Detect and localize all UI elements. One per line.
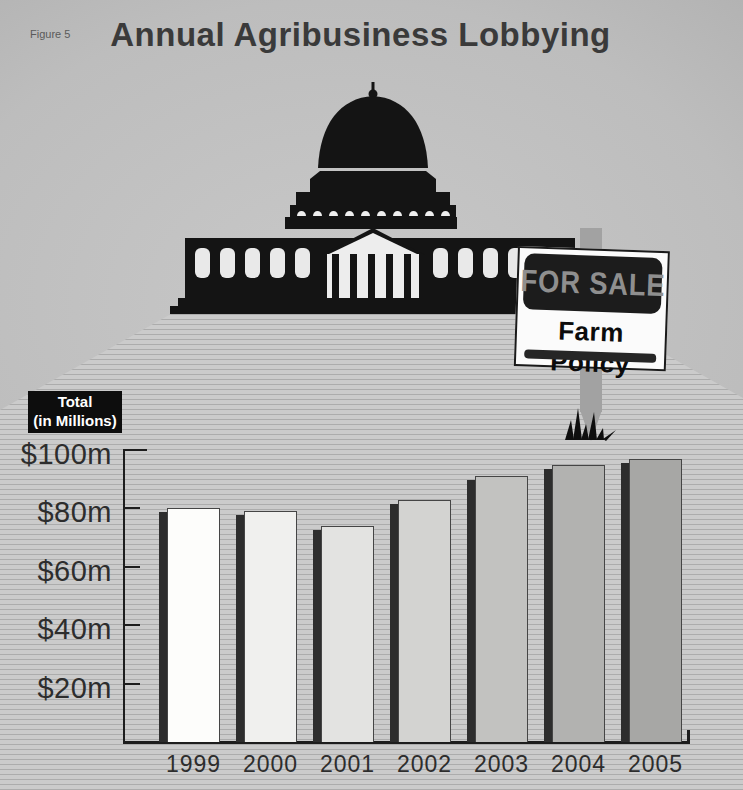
y-tick-label: $80m: [16, 496, 112, 529]
bar: [167, 508, 220, 742]
bar-shadow: [621, 463, 629, 742]
y-tick: [123, 683, 140, 685]
y-tick-label: $40m: [16, 613, 112, 646]
bar-shadow: [159, 512, 167, 742]
bar: [244, 511, 297, 742]
x-tick-label: 2003: [462, 751, 542, 778]
bar: [475, 476, 528, 742]
y-axis-line: [123, 450, 125, 742]
y-tick-label: $20m: [16, 672, 112, 705]
bar: [552, 465, 605, 742]
x-tick-label: 2005: [616, 751, 696, 778]
y-tick-label: $100m: [16, 438, 112, 471]
y-tick: [123, 566, 140, 568]
bar-shadow: [313, 530, 321, 742]
x-tick-label: 2000: [231, 751, 311, 778]
x-tick-label: 2002: [385, 751, 465, 778]
infographic-page: Figure 5 Annual Agribusiness Lobbying: [0, 0, 743, 790]
bar-shadow: [467, 480, 475, 742]
x-axis-end-tick: [687, 730, 690, 742]
bar-shadow: [390, 504, 398, 742]
bar-shadow: [236, 515, 244, 742]
x-tick-label: 1999: [154, 751, 234, 778]
bar: [398, 500, 451, 742]
bar: [321, 526, 374, 742]
bar-shadow: [544, 469, 552, 742]
y-tick: [123, 624, 140, 626]
x-tick-label: 2001: [308, 751, 388, 778]
y-tick-label: $60m: [16, 555, 112, 588]
y-tick: [123, 507, 140, 509]
y-tick: [123, 449, 147, 451]
bar: [629, 459, 682, 742]
x-tick-label: 2004: [539, 751, 619, 778]
bar-chart: $100m$80m$60m$40m$20m1999200020012002200…: [0, 0, 743, 790]
